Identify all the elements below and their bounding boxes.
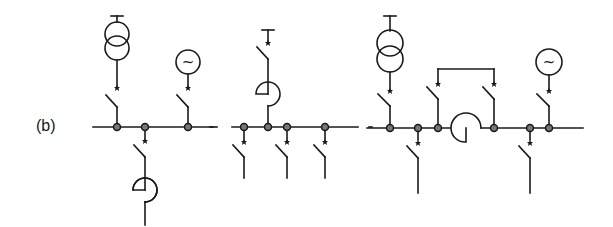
bus-node bbox=[185, 124, 192, 131]
feeder bbox=[407, 128, 421, 193]
bus-node bbox=[114, 124, 121, 131]
bus-node bbox=[527, 125, 534, 132]
feeder-with-reactor bbox=[133, 127, 157, 225]
breaker-mark-icon bbox=[546, 88, 552, 94]
single-line-diagram: ~ bbox=[0, 0, 613, 227]
bus-node bbox=[142, 124, 149, 131]
generator-icon: ~ bbox=[536, 49, 562, 90]
diagram-right: ~ bbox=[367, 16, 583, 193]
svg-text:~: ~ bbox=[182, 53, 195, 71]
breaker-mark-icon bbox=[387, 88, 393, 94]
bus-node bbox=[546, 125, 553, 132]
svg-text:~: ~ bbox=[543, 53, 556, 71]
diagram-canvas: (b) bbox=[0, 0, 613, 227]
transformer-icon bbox=[377, 16, 403, 90]
bus-node bbox=[284, 124, 291, 131]
bus-node bbox=[322, 124, 329, 131]
breaker-mark-icon bbox=[114, 85, 120, 91]
circuit-breaker-icon bbox=[106, 95, 117, 127]
bus-node bbox=[241, 124, 248, 131]
diagram-left: ~ bbox=[93, 16, 213, 225]
bus-node bbox=[491, 125, 498, 132]
circuit-breaker-icon bbox=[177, 95, 188, 127]
circuit-breaker-icon bbox=[537, 94, 549, 128]
bus-node bbox=[387, 125, 394, 132]
bus-node bbox=[415, 125, 422, 132]
breaker-mark-icon bbox=[185, 85, 191, 91]
feeder bbox=[233, 127, 247, 178]
breaker-mark-icon bbox=[142, 138, 148, 144]
feeder bbox=[276, 127, 290, 178]
generator-icon: ~ bbox=[176, 50, 200, 88]
bus-node bbox=[435, 125, 442, 132]
reactor-icon bbox=[451, 113, 481, 142]
bypass-breakers bbox=[427, 69, 497, 128]
feeder bbox=[519, 128, 533, 193]
bus-node bbox=[265, 124, 272, 131]
circuit-breaker-icon bbox=[378, 94, 390, 128]
feeder bbox=[314, 127, 328, 178]
diagram-middle bbox=[210, 30, 372, 178]
incoming-with-reactor bbox=[256, 30, 280, 127]
breaker-mark-icon bbox=[265, 40, 271, 46]
transformer-icon bbox=[105, 16, 129, 88]
